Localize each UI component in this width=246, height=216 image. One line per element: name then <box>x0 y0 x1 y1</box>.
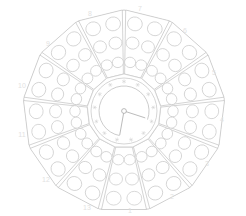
dial-pivot[interactable] <box>122 109 127 114</box>
hole[interactable] <box>113 155 124 165</box>
segment-label-10: 10 <box>18 82 26 89</box>
hole[interactable] <box>124 155 135 165</box>
hole[interactable] <box>127 191 142 205</box>
radial-dial-svg: 12345678910111213 <box>0 0 246 216</box>
segment-label-11: 11 <box>18 131 25 138</box>
hole[interactable] <box>126 173 139 185</box>
segment-label-13: 13 <box>83 204 91 211</box>
segment-label-12: 12 <box>42 176 50 183</box>
segment-label-5: 5 <box>212 69 216 76</box>
segment-label-7: 7 <box>138 5 142 12</box>
segment-label-6: 6 <box>183 27 187 34</box>
diagram-canvas: 12345678910111213 <box>0 0 246 216</box>
segment-label-1: 1 <box>128 207 132 214</box>
segment-label-4: 4 <box>220 116 224 123</box>
hole[interactable] <box>110 173 123 185</box>
segment-label-9: 9 <box>46 40 50 47</box>
segment-label-8: 8 <box>88 10 92 17</box>
hole[interactable] <box>106 191 121 205</box>
segment-label-3: 3 <box>205 160 209 167</box>
segment-label-2: 2 <box>170 193 174 200</box>
